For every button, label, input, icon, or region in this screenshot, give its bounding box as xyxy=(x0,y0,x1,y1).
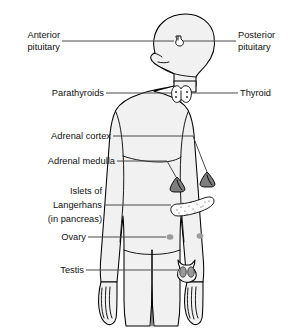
label-posterior-pituitary-line2: pituitary xyxy=(238,42,271,52)
ovary-left xyxy=(167,234,174,240)
label-islets-line3: (in pancreas) xyxy=(48,214,102,224)
body-silhouette xyxy=(99,14,215,326)
thyroid-gland xyxy=(172,86,192,103)
label-anterior-pituitary-line1: Anterior xyxy=(27,30,60,40)
label-testis: Testis xyxy=(60,265,84,275)
label-posterior-pituitary-line1: Posterior xyxy=(238,30,275,40)
parathyroid-dot xyxy=(175,96,177,98)
ovary-right xyxy=(197,233,204,239)
testis-right xyxy=(188,267,195,277)
adrenal-gland-right xyxy=(200,172,215,187)
endocrine-system-diagram: Anterior pituitary Posterior pituitary P… xyxy=(0,0,301,330)
label-anterior-pituitary-line2: pituitary xyxy=(27,42,60,52)
label-islets-line2: Langerhans xyxy=(53,200,102,210)
label-adrenal-medulla: Adrenal medulla xyxy=(48,156,116,166)
label-adrenal-cortex: Adrenal cortex xyxy=(51,131,111,141)
label-ovary: Ovary xyxy=(61,232,86,242)
parathyroid-dot xyxy=(175,91,177,93)
body-diagram-svg: Anterior pituitary Posterior pituitary P… xyxy=(0,0,301,330)
label-thyroid: Thyroid xyxy=(240,88,271,98)
testis-left xyxy=(180,267,187,277)
parathyroid-dot xyxy=(186,91,188,93)
label-parathyroids: Parathyroids xyxy=(52,88,105,98)
parathyroid-dot xyxy=(186,96,188,98)
label-islets-line1: Islets of xyxy=(70,186,102,196)
